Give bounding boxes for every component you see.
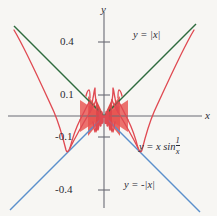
fraction-denominator: x (176, 147, 180, 156)
y-tick-label-0-1: 0.1 (60, 89, 74, 100)
upper-envelope-annotation: y = |x| (133, 30, 160, 41)
x-axis-label: x (205, 110, 210, 121)
lower-envelope-annotation: y = -|x| (124, 180, 155, 191)
upper-envelope-line (14, 24, 196, 116)
function-plot (0, 0, 217, 216)
oscillating-curve-annotation-text: y = x sin (139, 141, 176, 152)
y-tick-label-neg-0-4: -0.4 (55, 184, 72, 195)
one-over-x-fraction: 1x (176, 136, 180, 156)
y-tick-label-0-4: 0.4 (60, 36, 74, 47)
oscillating-curve-annotation: y = x sin1x (139, 136, 180, 156)
axis-lines (8, 12, 202, 208)
fraction-numerator: 1 (176, 136, 180, 145)
y-axis-label: y (101, 4, 106, 15)
y-tick-label-neg-0-1: -0.1 (55, 131, 72, 142)
